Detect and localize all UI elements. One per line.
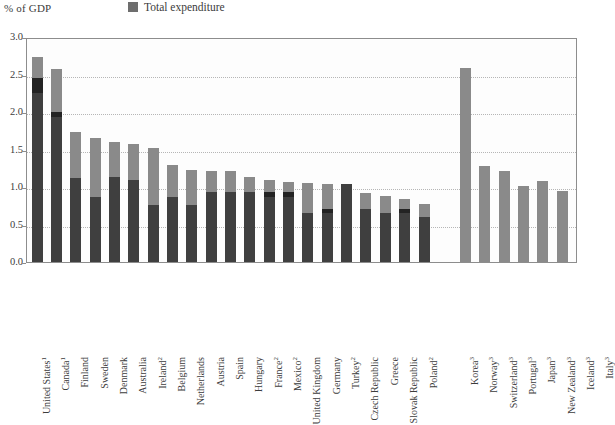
bar <box>518 186 529 263</box>
x-axis-tick-label: Netherlands <box>195 357 206 405</box>
y-tick-label: 2.0 <box>0 106 23 117</box>
bar <box>283 182 294 262</box>
y-tick-label: 0.0 <box>0 256 23 267</box>
x-axis-tick-label: Slovak Republic <box>408 357 419 423</box>
bar <box>380 196 391 262</box>
bar <box>51 69 62 263</box>
bar-segment-base <box>244 192 255 262</box>
bar-segment-total <box>576 193 577 262</box>
bar-segment-base <box>186 205 197 262</box>
x-axis-tick-label: Czech Republic <box>369 357 380 421</box>
bar <box>109 142 120 262</box>
bar-segment-total <box>537 181 548 262</box>
x-axis-tick-label: Iceland3 <box>585 357 596 390</box>
x-axis-tick-label: Spain <box>234 357 245 380</box>
bar <box>341 184 352 262</box>
x-axis-tick-label: Ireland2 <box>157 357 168 389</box>
y-tick-label: 2.5 <box>0 69 23 80</box>
x-axis-tick-label: Germany <box>331 357 342 394</box>
y-tick-label: 3.0 <box>0 31 23 42</box>
bar-segment-base <box>341 184 352 262</box>
bar <box>322 184 333 262</box>
bar <box>557 191 568 262</box>
x-axis-tick-label: Turkey2 <box>350 357 361 389</box>
bar <box>167 165 178 263</box>
bar-segment-base <box>419 217 430 262</box>
gridline <box>27 77 576 78</box>
bar-segment-base <box>264 197 275 262</box>
bar-segment-base <box>302 213 313 262</box>
bar <box>399 199 410 262</box>
chart-legend: Total expenditure <box>128 1 225 13</box>
bar <box>244 177 255 262</box>
bar <box>302 183 313 262</box>
bar <box>225 171 236 262</box>
x-axis-tick-label: Greece <box>389 357 400 385</box>
x-axis-tick-label: Japan3 <box>546 357 557 383</box>
bar-segment-base <box>225 192 236 262</box>
x-axis-tick-label: Austria <box>215 357 226 386</box>
bar-segment-base <box>206 192 217 262</box>
gridline <box>27 114 576 115</box>
x-axis-tick-label: Australia <box>137 357 148 394</box>
x-axis-tick-label: Sweden <box>99 357 110 389</box>
bar <box>479 166 490 262</box>
bar <box>148 148 159 262</box>
bar-segment-base <box>70 178 81 262</box>
bar <box>128 144 139 262</box>
x-axis-tick-label: Hungary <box>253 357 264 392</box>
bar <box>360 193 371 262</box>
x-axis-tick-label: Norway3 <box>488 357 499 393</box>
x-axis-tick-label: United Kingdom <box>311 357 322 425</box>
x-axis-tick-label: Korea3 <box>469 357 480 385</box>
bar-segment-base <box>380 213 391 262</box>
bar <box>264 180 275 263</box>
bar-segment-total <box>479 166 490 262</box>
bar-segment-base <box>148 205 159 262</box>
plot-area <box>26 38 577 263</box>
bar-segment-base <box>109 177 120 262</box>
x-axis-tick-label: Switzerland3 <box>508 357 519 408</box>
x-axis-tick-label: Denmark <box>118 357 129 394</box>
bar-segment-total <box>518 186 529 263</box>
bar <box>90 138 101 263</box>
legend-label-total-expenditure: Total expenditure <box>144 1 225 13</box>
bar <box>70 132 81 262</box>
x-axis-labels: United States1Canada1FinlandSwedenDenmar… <box>26 264 577 359</box>
x-axis-tick-label: Portugal3 <box>527 357 538 394</box>
x-axis-tick-label: Italy3 <box>604 357 615 379</box>
bar <box>576 193 577 262</box>
bar <box>537 181 548 262</box>
bar <box>460 68 471 262</box>
bar-segment-base <box>360 209 371 262</box>
bar-segment-base <box>399 213 410 262</box>
x-axis-tick-label: Canada1 <box>60 357 71 391</box>
bar-segment-base <box>32 93 43 262</box>
bar <box>499 171 510 262</box>
bar <box>206 171 217 263</box>
bar-segment-base <box>90 197 101 262</box>
x-axis-tick-label: Belgium <box>176 357 187 391</box>
bar-segment-base <box>167 197 178 262</box>
x-axis-tick-label: United States1 <box>41 357 52 414</box>
bar-segment-total <box>460 68 471 262</box>
x-axis-tick-label: France2 <box>273 357 284 388</box>
bar <box>419 204 430 262</box>
y-tick-label: 0.5 <box>0 219 23 230</box>
x-axis-tick-label: Finland <box>79 357 90 388</box>
y-tick-label: 1.0 <box>0 181 23 192</box>
bar-segment-base <box>322 213 333 262</box>
bar <box>186 170 197 262</box>
bar-segment-total <box>499 171 510 262</box>
x-axis-tick-label: Mexico2 <box>292 357 303 391</box>
y-axis-unit-label: % of GDP <box>4 2 51 14</box>
bar-segment-total <box>557 191 568 262</box>
bar-segment-base <box>128 180 139 263</box>
legend-swatch-total-expenditure <box>128 2 138 12</box>
bar-segment-base <box>51 117 62 262</box>
x-axis-tick-label: New Zealand3 <box>566 357 577 414</box>
y-tick-label: 1.5 <box>0 144 23 155</box>
x-axis-tick-label: Poland2 <box>428 357 439 388</box>
bar-segment-base <box>283 197 294 262</box>
